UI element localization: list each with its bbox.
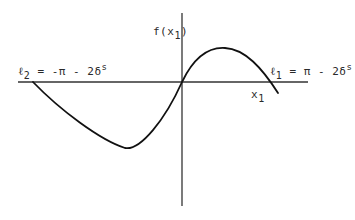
y-axis-label: f(x1) [153, 26, 188, 41]
right-bound-label: ℓ1 = π - 2δs [270, 63, 352, 81]
function-diagram: f(x1) x1 ℓ2 = -π - 2δs ℓ1 = π - 2δs [0, 0, 355, 220]
x-axis-label: x1 [251, 89, 265, 104]
left-bound-label: ℓ2 = -π - 2δs [18, 63, 107, 81]
